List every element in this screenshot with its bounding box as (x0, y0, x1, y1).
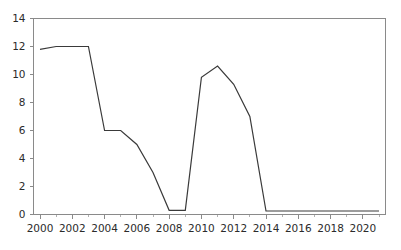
x-tick-label: 2006 (123, 222, 150, 234)
x-tick-label: 2010 (188, 222, 215, 234)
y-tick-label: 6 (19, 124, 26, 136)
x-tick-label: 2016 (285, 222, 312, 234)
x-tick-label: 2002 (59, 222, 86, 234)
y-tick-label: 2 (19, 180, 26, 192)
y-tick-label: 14 (12, 12, 26, 24)
chart-container: 02468101214 2000200220042006200820102012… (0, 0, 401, 250)
x-tick-label: 2014 (253, 222, 280, 234)
line-chart: 02468101214 2000200220042006200820102012… (0, 0, 401, 250)
y-tick-label: 0 (19, 208, 26, 220)
x-tick-label: 2018 (317, 222, 344, 234)
x-tick-label: 2020 (349, 222, 376, 234)
y-tick-label: 8 (19, 96, 26, 108)
x-tick-label: 2004 (91, 222, 118, 234)
x-axis-tick-labels: 2000200220042006200820102012201420162018… (27, 222, 377, 234)
y-tick-label: 4 (19, 152, 26, 164)
y-tick-label: 10 (12, 68, 25, 80)
x-tick-label: 2008 (156, 222, 183, 234)
x-tick-label: 2012 (220, 222, 247, 234)
x-tick-label: 2000 (27, 222, 54, 234)
y-tick-label: 12 (12, 40, 25, 52)
chart-background (0, 0, 401, 250)
